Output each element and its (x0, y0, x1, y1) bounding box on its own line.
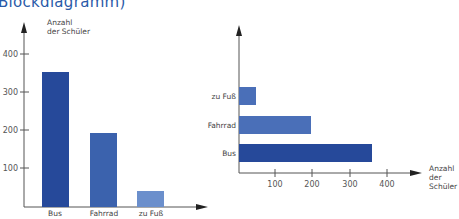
category-label: Fahrrad (208, 121, 237, 130)
y-axis-label-line2: der Schüler (47, 27, 91, 36)
category-label: Bus (222, 149, 236, 158)
category-label: Bus (48, 209, 62, 218)
x-axis-arrow-icon (410, 170, 422, 176)
bar-fahrrad (239, 116, 311, 134)
y-axis-label-line1: Anzahl (47, 18, 72, 27)
charts-canvas: 100 200 300 400 Anzahl der Schüler Bus F… (0, 0, 459, 219)
y-axis-arrow-icon (21, 22, 27, 33)
y-axis-arrow-icon (236, 25, 242, 36)
x-axis-label-line1: Anzahl (429, 164, 454, 173)
x-ticks: 100 200 300 400 (267, 169, 394, 189)
y-tick-label: 200 (3, 126, 18, 135)
category-label: zu Fuß (212, 92, 237, 101)
y-tick-label: 400 (3, 50, 18, 59)
x-axis-label-line3: Schüler (429, 182, 458, 191)
x-tick-label: 300 (342, 180, 357, 189)
x-tick-label: 200 (304, 180, 319, 189)
bar-zu-fuss (137, 191, 164, 207)
x-axis-label-line2: der (429, 173, 442, 182)
bar-fahrrad (90, 133, 117, 207)
y-tick-label: 300 (3, 88, 18, 97)
horizontal-bar-chart: zu Fuß Fahrrad Bus 100 200 300 400 Anzah… (208, 25, 458, 191)
y-ticks: 100 200 300 400 (3, 50, 29, 173)
x-tick-label: 100 (267, 180, 282, 189)
category-label: zu Fuß (139, 209, 164, 218)
bar-bus (239, 144, 372, 162)
bar-bus (42, 72, 69, 207)
bar-zu-fuss (239, 87, 256, 105)
y-tick-label: 100 (3, 164, 18, 173)
x-tick-label: 400 (379, 180, 394, 189)
category-label: Fahrrad (90, 209, 119, 218)
x-axis-arrow-icon (196, 204, 208, 210)
vertical-bar-chart: 100 200 300 400 Anzahl der Schüler Bus F… (3, 18, 208, 218)
